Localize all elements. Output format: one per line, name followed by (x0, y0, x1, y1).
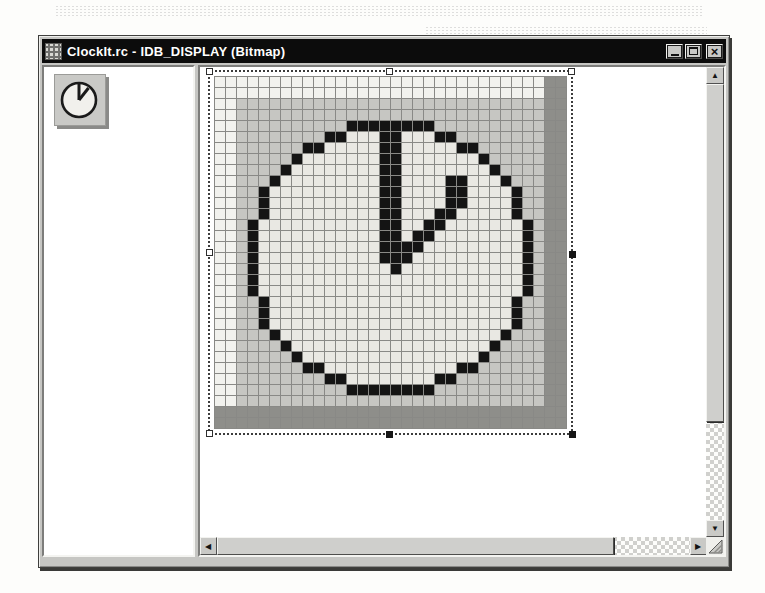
bitmap-pixel[interactable] (512, 385, 523, 396)
bitmap-pixel[interactable] (424, 396, 435, 407)
bitmap-thumbnail[interactable] (54, 74, 106, 126)
bitmap-pixel[interactable] (512, 77, 523, 88)
bitmap-pixel[interactable] (303, 132, 314, 143)
bitmap-pixel[interactable] (402, 132, 413, 143)
bitmap-pixel[interactable] (369, 176, 380, 187)
bitmap-pixel[interactable] (512, 297, 523, 308)
bitmap-pixel[interactable] (512, 286, 523, 297)
bitmap-pixel[interactable] (270, 165, 281, 176)
bitmap-pixel[interactable] (435, 330, 446, 341)
bitmap-pixel[interactable] (468, 286, 479, 297)
bitmap-pixel[interactable] (226, 154, 237, 165)
bitmap-pixel[interactable] (523, 154, 534, 165)
bitmap-pixel[interactable] (237, 418, 248, 429)
bitmap-pixel[interactable] (358, 77, 369, 88)
bitmap-pixel[interactable] (325, 176, 336, 187)
bitmap-pixel[interactable] (259, 242, 270, 253)
bitmap-pixel[interactable] (336, 396, 347, 407)
bitmap-pixel[interactable] (523, 352, 534, 363)
bitmap-pixel[interactable] (369, 264, 380, 275)
bitmap-pixel[interactable] (336, 154, 347, 165)
bitmap-pixel[interactable] (402, 341, 413, 352)
bitmap-pixel[interactable] (380, 253, 391, 264)
bitmap-pixel[interactable] (347, 198, 358, 209)
bitmap-pixel[interactable] (314, 363, 325, 374)
bitmap-pixel[interactable] (259, 330, 270, 341)
bitmap-pixel[interactable] (259, 99, 270, 110)
bitmap-pixel[interactable] (457, 99, 468, 110)
bitmap-pixel[interactable] (446, 154, 457, 165)
bitmap-pixel[interactable] (237, 121, 248, 132)
bitmap-pixel[interactable] (314, 242, 325, 253)
bitmap-pixel[interactable] (215, 231, 226, 242)
bitmap-pixel[interactable] (468, 308, 479, 319)
bitmap-pixel[interactable] (215, 330, 226, 341)
bitmap-pixel[interactable] (523, 220, 534, 231)
bitmap-pixel[interactable] (347, 209, 358, 220)
bitmap-pixel[interactable] (314, 77, 325, 88)
bitmap-pixel[interactable] (347, 341, 358, 352)
bitmap-pixel[interactable] (435, 198, 446, 209)
bitmap-pixel[interactable] (391, 275, 402, 286)
bitmap-pixel[interactable] (556, 352, 567, 363)
bitmap-pixel[interactable] (490, 385, 501, 396)
bitmap-pixel[interactable] (226, 209, 237, 220)
bitmap-pixel[interactable] (479, 352, 490, 363)
bitmap-pixel[interactable] (457, 220, 468, 231)
bitmap-pixel[interactable] (226, 77, 237, 88)
bitmap-pixel[interactable] (380, 319, 391, 330)
bitmap-pixel[interactable] (479, 132, 490, 143)
bitmap-pixel[interactable] (490, 110, 501, 121)
bitmap-pixel[interactable] (237, 341, 248, 352)
bitmap-pixel[interactable] (237, 319, 248, 330)
selection-handle-top-left[interactable] (206, 68, 213, 75)
bitmap-pixel[interactable] (402, 198, 413, 209)
bitmap-pixel[interactable] (446, 110, 457, 121)
bitmap-pixel[interactable] (226, 253, 237, 264)
bitmap-pixel[interactable] (369, 308, 380, 319)
bitmap-pixel[interactable] (490, 396, 501, 407)
bitmap-pixel[interactable] (358, 330, 369, 341)
bitmap-pixel[interactable] (545, 363, 556, 374)
bitmap-pixel[interactable] (369, 99, 380, 110)
bitmap-pixel[interactable] (380, 165, 391, 176)
bitmap-pixel[interactable] (303, 242, 314, 253)
bitmap-pixel[interactable] (237, 198, 248, 209)
bitmap-pixel[interactable] (259, 264, 270, 275)
bitmap-pixel[interactable] (215, 110, 226, 121)
bitmap-pixel[interactable] (413, 407, 424, 418)
bitmap-pixel[interactable] (391, 297, 402, 308)
bitmap-pixel[interactable] (259, 154, 270, 165)
bitmap-pixel[interactable] (292, 330, 303, 341)
bitmap-pixel[interactable] (457, 121, 468, 132)
bitmap-pixel[interactable] (501, 110, 512, 121)
bitmap-pixel[interactable] (347, 385, 358, 396)
bitmap-pixel[interactable] (490, 132, 501, 143)
bitmap-pixel[interactable] (380, 143, 391, 154)
bitmap-pixel[interactable] (314, 165, 325, 176)
bitmap-pixel[interactable] (545, 143, 556, 154)
bitmap-pixel[interactable] (347, 352, 358, 363)
bitmap-pixel[interactable] (501, 275, 512, 286)
bitmap-pixel[interactable] (215, 341, 226, 352)
bitmap-pixel[interactable] (281, 154, 292, 165)
bitmap-pixel[interactable] (435, 374, 446, 385)
bitmap-pixel[interactable] (369, 165, 380, 176)
bitmap-pixel[interactable] (424, 385, 435, 396)
bitmap-pixel[interactable] (303, 198, 314, 209)
bitmap-pixel[interactable] (292, 143, 303, 154)
bitmap-pixel[interactable] (446, 330, 457, 341)
bitmap-pixel[interactable] (259, 253, 270, 264)
bitmap-pixel[interactable] (523, 308, 534, 319)
bitmap-pixel[interactable] (314, 110, 325, 121)
bitmap-pixel[interactable] (237, 220, 248, 231)
bitmap-pixel[interactable] (523, 286, 534, 297)
bitmap-pixel[interactable] (446, 286, 457, 297)
bitmap-pixel[interactable] (545, 418, 556, 429)
bitmap-pixel[interactable] (215, 77, 226, 88)
bitmap-pixel[interactable] (281, 286, 292, 297)
bitmap-pixel[interactable] (358, 242, 369, 253)
bitmap-pixel[interactable] (512, 275, 523, 286)
bitmap-pixel[interactable] (534, 132, 545, 143)
bitmap-pixel[interactable] (369, 385, 380, 396)
